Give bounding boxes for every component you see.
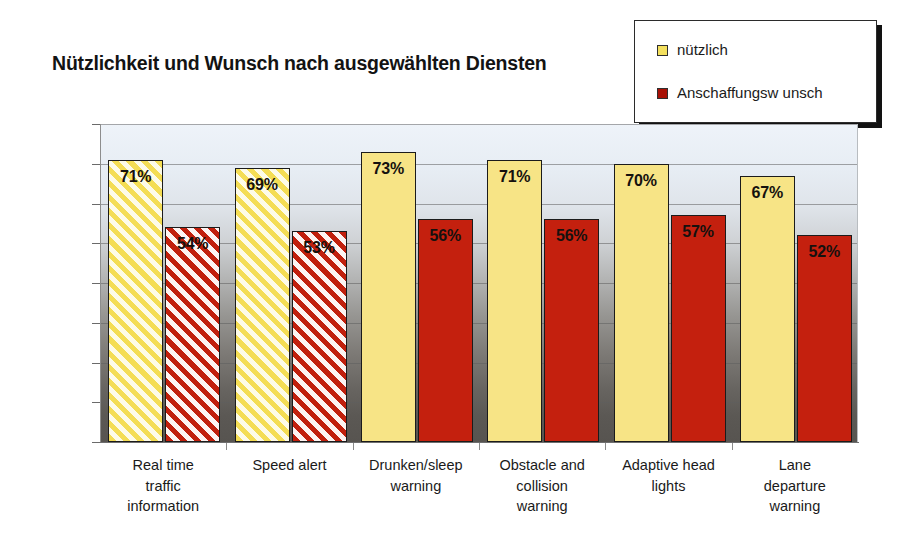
bar-value-label: 57% bbox=[672, 223, 725, 240]
bar-nützlich-2: 73% bbox=[361, 152, 416, 442]
legend-swatch-yellow-icon bbox=[657, 45, 668, 56]
x-category-label-line: Drunken/sleep bbox=[353, 455, 479, 476]
x-category-label: Lanedeparturewarning bbox=[732, 455, 858, 517]
x-category-label-line: collision bbox=[479, 476, 605, 497]
x-category-label-line: warning bbox=[353, 476, 479, 497]
x-category-label-line: traffic bbox=[100, 476, 226, 497]
bar-value-label: 71% bbox=[109, 168, 162, 185]
x-category-label-line: warning bbox=[732, 496, 858, 517]
chart-legend: nützlich Anschaffungsw unsch bbox=[634, 20, 877, 123]
x-category-label-line: lights bbox=[605, 476, 731, 497]
y-tick-mark bbox=[92, 323, 100, 324]
x-category-label: Drunken/sleepwarning bbox=[353, 455, 479, 496]
gridline bbox=[101, 164, 857, 165]
bar-nützlich-1: 69% bbox=[235, 168, 290, 442]
x-tick-mark bbox=[732, 443, 733, 450]
x-category-label-line: Obstacle and bbox=[479, 455, 605, 476]
x-category-label-line: warning bbox=[479, 496, 605, 517]
y-tick-mark bbox=[92, 442, 100, 443]
x-category-label-line: Real time bbox=[100, 455, 226, 476]
x-category-label-line: Adaptive head bbox=[605, 455, 731, 476]
bar-value-label: 54% bbox=[166, 235, 219, 252]
bar-value-label: 70% bbox=[615, 172, 668, 189]
bar-anschaffungsw-1: 53% bbox=[292, 231, 347, 442]
legend-swatch-red-icon bbox=[657, 88, 668, 99]
bar-value-label: 56% bbox=[419, 227, 472, 244]
x-tick-mark bbox=[479, 443, 480, 450]
legend-label-anschaffungswunsch: Anschaffungsw unsch bbox=[677, 85, 823, 101]
bar-chart: Nützlichkeit und Wunsch nach ausgewählte… bbox=[0, 0, 915, 539]
plot-area: 71%54%69%53%73%56%71%56%70%57%67%52% bbox=[100, 124, 858, 442]
x-category-label-line: Speed alert bbox=[226, 455, 352, 476]
chart-title: Nützlichkeit und Wunsch nach ausgewählte… bbox=[52, 50, 632, 76]
legend-item-anschaffungswunsch: Anschaffungsw unsch bbox=[657, 85, 823, 101]
bar-value-label: 56% bbox=[545, 227, 598, 244]
legend-label-nuetzlich: nützlich bbox=[677, 42, 728, 58]
y-tick-mark bbox=[92, 363, 100, 364]
y-tick-mark bbox=[92, 164, 100, 165]
x-category-label: Adaptive headlights bbox=[605, 455, 731, 496]
y-tick-mark bbox=[92, 283, 100, 284]
bar-value-label: 67% bbox=[741, 184, 794, 201]
bar-nützlich-4: 70% bbox=[614, 164, 669, 442]
y-tick-mark bbox=[92, 204, 100, 205]
x-category-label-line: Lane bbox=[732, 455, 858, 476]
x-category-label: Real timetrafficinformation bbox=[100, 455, 226, 517]
bar-value-label: 53% bbox=[293, 239, 346, 256]
bar-nützlich-5: 67% bbox=[740, 176, 795, 442]
bar-value-label: 69% bbox=[236, 176, 289, 193]
x-tick-mark bbox=[226, 443, 227, 450]
x-category-label-line: information bbox=[100, 496, 226, 517]
bar-value-label: 71% bbox=[488, 168, 541, 185]
bar-nützlich-3: 71% bbox=[487, 160, 542, 442]
bar-value-label: 52% bbox=[798, 243, 851, 260]
gridline bbox=[101, 124, 857, 125]
x-category-label: Speed alert bbox=[226, 455, 352, 476]
bar-anschaffungsw-0: 54% bbox=[165, 227, 220, 442]
bar-anschaffungsw-2: 56% bbox=[418, 219, 473, 442]
x-category-label-line: departure bbox=[732, 476, 858, 497]
x-tick-mark bbox=[605, 443, 606, 450]
bar-value-label: 73% bbox=[362, 160, 415, 177]
legend-item-nuetzlich: nützlich bbox=[657, 42, 728, 58]
bar-anschaffungsw-5: 52% bbox=[797, 235, 852, 442]
bar-anschaffungsw-4: 57% bbox=[671, 215, 726, 442]
y-tick-mark bbox=[92, 243, 100, 244]
y-tick-mark bbox=[92, 124, 100, 125]
x-category-label: Obstacle andcollisionwarning bbox=[479, 455, 605, 517]
bar-nützlich-0: 71% bbox=[108, 160, 163, 442]
y-tick-mark bbox=[92, 402, 100, 403]
x-tick-mark bbox=[353, 443, 354, 450]
bar-anschaffungsw-3: 56% bbox=[544, 219, 599, 442]
